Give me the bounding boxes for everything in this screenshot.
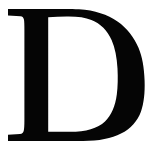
letter-d-outline-path — [8, 9, 145, 141]
glyph-canvas: D — [0, 0, 147, 150]
letter-d-glyph: D — [0, 0, 147, 150]
